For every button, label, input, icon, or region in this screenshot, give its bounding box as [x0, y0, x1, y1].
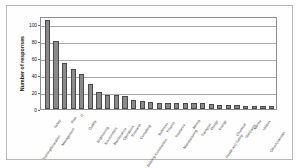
plot-area — [40, 17, 277, 110]
bar — [269, 106, 274, 109]
bar — [243, 106, 248, 109]
bar — [165, 103, 170, 109]
bar — [88, 84, 93, 109]
bar-slot — [121, 18, 130, 109]
bar-slot — [103, 18, 112, 109]
y-tick-label: 60 — [32, 57, 37, 62]
x-axis-tick-labels: Training/EducationSafetyManagementRiskIT… — [40, 111, 277, 163]
figure-container: Number of responses 020406080100 Trainin… — [0, 0, 299, 168]
bar — [96, 92, 101, 109]
bar — [79, 74, 84, 109]
bar — [114, 95, 119, 109]
bar-slot — [78, 18, 87, 109]
bar-slot — [43, 18, 52, 109]
bar-slot — [216, 18, 225, 109]
bar — [45, 20, 50, 109]
x-tick-label: Quality — [95, 111, 104, 122]
y-tick-label: 20 — [32, 91, 37, 96]
bar — [217, 105, 222, 109]
bar-slot — [259, 18, 268, 109]
y-tick-label: 100 — [29, 23, 37, 28]
bar-slot — [60, 18, 69, 109]
bar — [226, 105, 231, 109]
bar — [140, 101, 145, 109]
bar-slot — [95, 18, 104, 109]
bar — [200, 103, 205, 109]
bar-slot — [198, 18, 207, 109]
x-tick-label: Consulting — [149, 111, 161, 127]
bar — [260, 106, 265, 109]
bar-slot — [172, 18, 181, 109]
bar-slot — [69, 18, 78, 109]
bar — [174, 103, 179, 109]
bar-slot — [267, 18, 276, 109]
bar-slot — [147, 18, 156, 109]
bar — [53, 41, 58, 109]
bar — [122, 96, 127, 109]
bar — [131, 100, 136, 109]
bar-slot — [112, 18, 121, 109]
x-tick-label: Safety — [59, 111, 68, 121]
bar-slot — [207, 18, 216, 109]
bar-slot — [155, 18, 164, 109]
y-tick-label: 80 — [32, 40, 37, 45]
bar-slot — [138, 18, 147, 109]
bar-slot — [86, 18, 95, 109]
bar — [105, 95, 110, 109]
bar — [234, 105, 239, 109]
y-tick-label: 40 — [32, 74, 37, 79]
bar — [209, 104, 214, 109]
x-tick-label: Energy — [225, 111, 234, 122]
y-axis-ticks: 020406080100 — [0, 0, 40, 127]
bar — [191, 103, 196, 109]
bar-slot — [181, 18, 190, 109]
bar — [148, 102, 153, 109]
bar-slot — [233, 18, 242, 109]
bar-slot — [190, 18, 199, 109]
bar — [157, 103, 162, 109]
bar — [252, 106, 257, 109]
bar-slot — [164, 18, 173, 109]
bar — [71, 69, 76, 109]
bar-slot — [250, 18, 259, 109]
bar — [183, 103, 188, 109]
bar-slot — [129, 18, 138, 109]
bar-slot — [224, 18, 233, 109]
bar-slot — [52, 18, 61, 109]
bar-series — [41, 18, 276, 109]
bar-slot — [241, 18, 250, 109]
y-tick-label: 0 — [34, 108, 37, 113]
x-tick-label: Utilities — [269, 111, 278, 122]
bar — [62, 63, 67, 109]
